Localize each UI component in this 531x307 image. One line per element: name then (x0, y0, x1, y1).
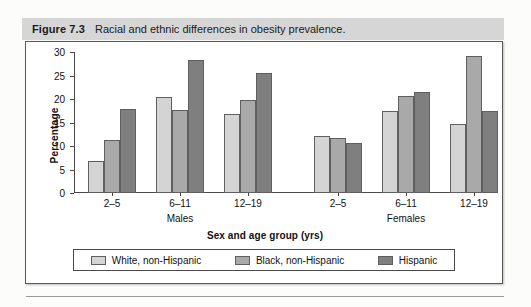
figure-page: Figure 7.3 Racial and ethnic differences… (0, 0, 531, 307)
y-axis-tickmark-25 (70, 76, 74, 77)
y-axis-tickmark-5 (70, 170, 74, 171)
x-axis-tick-label: 2–5 (330, 198, 347, 209)
bar (466, 56, 482, 193)
bar (382, 111, 398, 193)
legend-item: White, non-Hispanic (91, 255, 201, 266)
y-axis-tick-5: 5 (59, 164, 65, 175)
bar (346, 143, 362, 193)
figure-frame: Percentage 051015202530 Sex and age grou… (25, 41, 503, 284)
bar (414, 92, 430, 193)
bar (224, 114, 240, 193)
bar (450, 124, 466, 193)
figure-number: Figure 7.3 (32, 23, 85, 35)
y-axis-tick-15: 15 (54, 117, 65, 128)
x-axis-group-label-males: Males (167, 213, 194, 224)
y-axis-tick-10: 10 (54, 141, 65, 152)
y-axis-tick-25: 25 (54, 70, 65, 81)
bar (256, 73, 272, 193)
bar (398, 96, 414, 193)
legend-swatch-icon (235, 256, 250, 265)
figure-caption-text: Racial and ethnic differences in obesity… (95, 23, 346, 35)
bar (240, 100, 256, 193)
legend-label: White, non-Hispanic (112, 255, 201, 266)
legend-item: Hispanic (378, 255, 437, 266)
chart-plot-area: Percentage 051015202530 Sex and age grou… (26, 42, 504, 285)
y-axis-tick-0: 0 (59, 188, 65, 199)
x-axis-tick-label: 12–19 (460, 198, 488, 209)
y-axis-tickmark-20 (70, 99, 74, 100)
bars-layer (75, 52, 478, 193)
legend-swatch-icon (378, 256, 393, 265)
bar (482, 111, 498, 193)
y-axis-tickmark-30 (70, 52, 74, 53)
bar (88, 161, 104, 193)
bar (172, 110, 188, 193)
legend-swatch-icon (91, 256, 106, 265)
figure-caption-band: Figure 7.3 Racial and ethnic differences… (22, 18, 504, 40)
x-axis-tick-label: 12–19 (234, 198, 262, 209)
x-axis-label: Sex and age group (yrs) (26, 230, 504, 241)
x-axis-tick-label: 6–11 (169, 198, 191, 209)
bar (330, 138, 346, 193)
page-divider-rule (26, 296, 504, 297)
chart-legend: White, non-HispanicBlack, non-HispanicHi… (73, 249, 455, 271)
legend-label: Hispanic (399, 255, 437, 266)
x-axis-tick-label: 2–5 (104, 198, 121, 209)
y-axis-tick-30: 30 (54, 47, 65, 58)
bar (104, 140, 120, 193)
bar (188, 60, 204, 193)
y-axis-tick-20: 20 (54, 94, 65, 105)
y-axis-tickmark-0 (70, 193, 74, 194)
bar (314, 136, 330, 193)
legend-label: Black, non-Hispanic (256, 255, 344, 266)
x-axis-group-label-females: Females (387, 213, 425, 224)
y-axis-tickmark-15 (70, 123, 74, 124)
legend-item: Black, non-Hispanic (235, 255, 344, 266)
x-axis-tick-label: 6–11 (395, 198, 417, 209)
bar (156, 97, 172, 193)
bar (120, 109, 136, 193)
y-axis-tick-labels: 051015202530 (44, 52, 70, 192)
y-axis-tickmark-10 (70, 146, 74, 147)
